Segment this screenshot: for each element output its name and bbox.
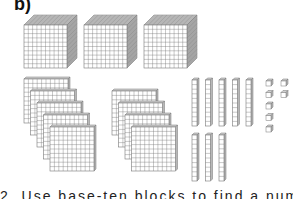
thousand-cube — [144, 15, 197, 68]
hundred-flat — [132, 125, 178, 171]
unit-cube — [266, 114, 273, 121]
thousand-cube — [24, 15, 77, 68]
ten-rod — [192, 133, 199, 181]
ten-rod — [246, 78, 253, 126]
unit-cube — [266, 102, 273, 109]
unit-cube — [266, 79, 273, 86]
ten-rod — [219, 78, 226, 126]
hundred-flat — [50, 125, 96, 171]
unit-cube — [281, 79, 288, 86]
base-ten-blocks-diagram — [0, 0, 293, 199]
ten-rod — [206, 78, 213, 126]
thousand-cube — [84, 15, 137, 68]
unit-cube — [281, 91, 288, 98]
ten-rod — [192, 78, 199, 126]
ten-rod — [233, 78, 240, 126]
ten-rod — [206, 133, 213, 181]
unit-cube — [266, 125, 273, 132]
unit-cube — [266, 91, 273, 98]
cut-off-caption: 2. Use base-ten blocks to find a number. — [0, 188, 293, 199]
ten-rod — [219, 133, 226, 181]
